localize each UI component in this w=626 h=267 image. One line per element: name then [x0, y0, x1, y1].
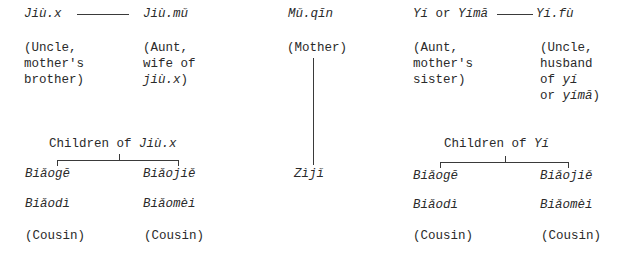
gloss-jiu-x-italic: jiù.x: [143, 73, 181, 87]
term-biaodi-right: Biǎodì: [413, 197, 458, 213]
gloss-yima-italic: yímā: [563, 89, 593, 103]
term-jiu-x: Jiù.x: [24, 6, 62, 22]
term-biaodi-left: Biǎodì: [25, 196, 70, 212]
gloss-uncle-husband-4: or yímā): [540, 88, 600, 104]
children-of-label: Children of: [49, 137, 139, 151]
gloss-uncle-husband-1: (Uncle,: [540, 40, 593, 56]
gloss-aunt-wife-3: jiù.x): [143, 72, 188, 88]
term-yima: Yímā: [458, 7, 488, 21]
or-word: or: [428, 7, 458, 21]
gloss-aunt-mothers-sister-2: mother's: [413, 56, 473, 72]
term-jiu-mu: Jiù.mǔ: [143, 6, 188, 22]
sibling-bracket-right-stem: [505, 156, 506, 162]
term-biaomei-left: Biǎomèi: [143, 196, 196, 212]
gloss-aunt-mothers-sister-3: sister): [413, 72, 466, 88]
gloss-aunt-wife-1: (Aunt,: [143, 40, 188, 56]
gloss-uncle-mothers-brother-3: brother): [24, 72, 84, 88]
term-biaojie-left: Biǎojiě: [143, 166, 196, 182]
children-of-yi-heading: Children of Yí: [444, 136, 549, 152]
gloss-close-paren-2: ): [593, 89, 601, 103]
gloss-yi-italic: yí: [563, 73, 578, 87]
term-mu-qin: Mǔ.qīn: [288, 6, 333, 22]
marriage-line-left: [77, 14, 129, 15]
gloss-cousin-left-1: (Cousin): [25, 228, 85, 244]
descent-line-self: [313, 58, 314, 165]
gloss-cousin-right-1: (Cousin): [413, 228, 473, 244]
gloss-mother: (Mother): [287, 40, 347, 56]
gloss-cousin-right-2: (Cousin): [541, 228, 601, 244]
of-word: of: [540, 73, 563, 87]
gloss-uncle-husband-3: of yí: [540, 72, 578, 88]
term-yi: Yí: [413, 7, 428, 21]
sibling-bracket-left: [57, 160, 179, 161]
term-yi-fu: Yí.fù: [536, 6, 574, 22]
gloss-uncle-husband-2: husband: [540, 56, 593, 72]
term-biaoge-right: Biǎogē: [413, 168, 458, 184]
gloss-cousin-left-2: (Cousin): [144, 228, 204, 244]
gloss-close-paren: ): [181, 73, 189, 87]
children-of-jiu-italic: Jiù.x: [139, 137, 177, 151]
term-biaoge-left: Biǎogē: [25, 166, 70, 182]
sibling-bracket-left-stem: [119, 154, 120, 160]
term-biaojie-right: Biǎojiě: [540, 168, 593, 184]
children-of-jiu-heading: Children of Jiù.x: [49, 136, 177, 152]
children-of-label-2: Children of: [444, 137, 534, 151]
gloss-uncle-mothers-brother-2: mother's: [24, 56, 84, 72]
or-word-2: or: [540, 89, 563, 103]
marriage-line-right: [497, 14, 533, 15]
children-of-yi-italic: Yí: [534, 137, 549, 151]
gloss-aunt-wife-2: wife of: [143, 56, 196, 72]
sibling-bracket-right: [440, 162, 569, 163]
gloss-aunt-mothers-sister-1: (Aunt,: [413, 40, 458, 56]
gloss-uncle-mothers-brother-1: (Uncle,: [24, 40, 77, 56]
term-yi-or-yima: Yí or Yímā: [413, 6, 488, 22]
term-biaomei-right: Biǎomèi: [540, 197, 593, 213]
term-ziji: Zìjǐ: [294, 166, 324, 182]
